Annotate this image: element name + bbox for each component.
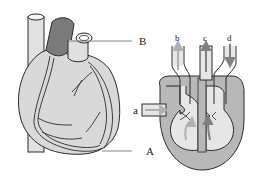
- label-A: A: [146, 145, 154, 157]
- heart-diagram: B A: [0, 0, 255, 183]
- label-b: b: [175, 33, 180, 43]
- label-c: c: [203, 33, 207, 43]
- label-B: B: [139, 35, 146, 47]
- external-heart: [18, 14, 119, 154]
- label-d: d: [227, 33, 232, 43]
- label-a: a: [133, 104, 138, 116]
